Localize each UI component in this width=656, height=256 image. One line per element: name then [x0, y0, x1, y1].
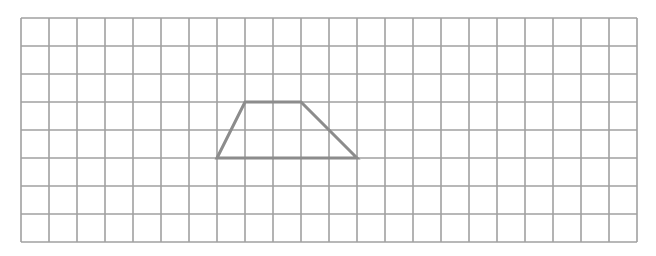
- grid-diagram: [0, 0, 656, 256]
